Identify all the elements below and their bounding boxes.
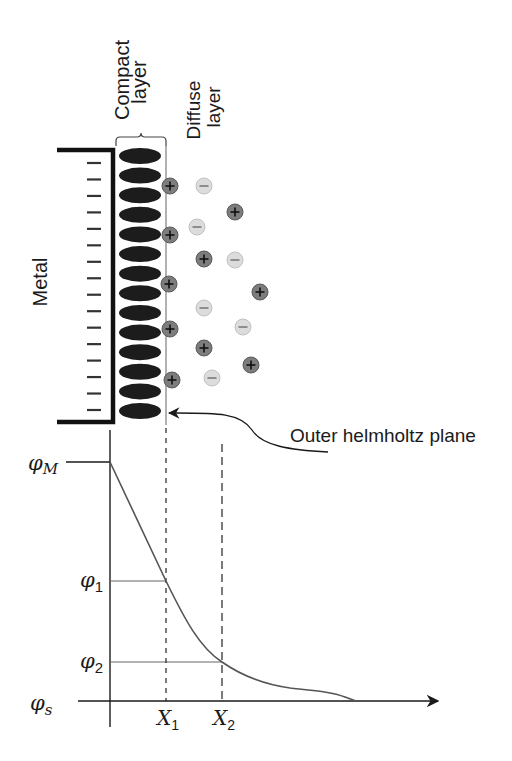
- negative-ion: [189, 219, 205, 235]
- negative-ion: [227, 252, 243, 268]
- positive-ion: [164, 372, 180, 388]
- negative-ion: [204, 370, 220, 386]
- positive-ion: [196, 340, 212, 356]
- negative-ion: [235, 319, 251, 335]
- compact-layer-label-line2: layer: [128, 60, 150, 104]
- x1-label: X1: [155, 706, 179, 733]
- positive-ion: [162, 227, 178, 243]
- positive-ion: [227, 204, 243, 220]
- solvent-molecule: [119, 266, 161, 282]
- diffuse-layer-label-line2: layer: [203, 86, 224, 128]
- positive-ion: [252, 284, 268, 300]
- diffuse-layer-label: Diffuse layer: [183, 81, 224, 140]
- solvent-molecule: [119, 344, 161, 360]
- double-layer-diagram: Compact layer Diffuse layer Metal Outer …: [0, 0, 512, 761]
- solvent-molecule: [119, 403, 161, 419]
- compact-layer-molecules: [119, 148, 161, 419]
- diffuse-layer-label-line1: Diffuse: [183, 81, 204, 140]
- compact-layer-brace: [116, 133, 166, 146]
- solvent-molecule: [119, 168, 161, 184]
- metal-label: Metal: [29, 258, 51, 307]
- solvent-molecule: [119, 187, 161, 203]
- positive-ion: [196, 251, 212, 267]
- diffuse-layer-ions: [161, 178, 268, 388]
- solvent-molecule: [119, 207, 161, 223]
- metal-surface-charges: [87, 163, 101, 410]
- phi-m-label: φM: [28, 451, 59, 478]
- outer-helmholtz-plane-label: Outer helmholtz plane: [290, 425, 476, 446]
- metal-electrode: [57, 150, 113, 422]
- solvent-molecule: [119, 364, 161, 380]
- phi-2-label: φ2: [80, 649, 103, 676]
- positive-ion: [162, 178, 178, 194]
- positive-ion: [161, 276, 177, 292]
- potential-plot: φM φ1 φ2 φs X1 X2: [28, 428, 438, 733]
- compact-layer-label: Compact layer: [111, 40, 150, 120]
- solvent-molecule: [119, 226, 161, 242]
- x2-label: X2: [211, 706, 235, 733]
- solvent-molecule: [119, 305, 161, 321]
- solvent-molecule: [119, 325, 161, 341]
- solvent-molecule: [119, 148, 161, 164]
- positive-ion: [243, 357, 259, 373]
- phi-1-label: φ1: [80, 568, 103, 595]
- negative-ion: [196, 178, 212, 194]
- negative-ion: [196, 300, 212, 316]
- phi-s-label: φs: [30, 691, 53, 719]
- positive-ion: [162, 321, 178, 337]
- solvent-molecule: [119, 383, 161, 399]
- solvent-molecule: [119, 246, 161, 262]
- solvent-molecule: [119, 285, 161, 301]
